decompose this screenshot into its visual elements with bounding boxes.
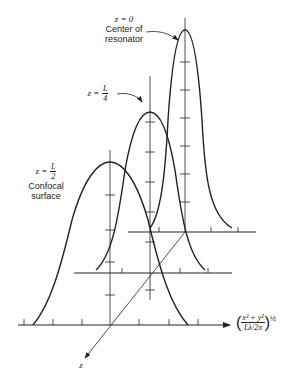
label-x-axis: (x² + y²Lλ/2π)½ <box>236 313 302 332</box>
plane-zL4 <box>74 76 232 300</box>
label-z-axis: z <box>76 360 86 370</box>
plane-z0 <box>128 18 256 232</box>
label-zL2: z = L2 Confocal surface <box>22 162 70 201</box>
label-zL4: z = L4 <box>78 84 118 103</box>
curve-z0 <box>150 30 232 228</box>
curve-zL4 <box>96 112 205 270</box>
callout-zL4 <box>117 93 142 102</box>
label-z0: z = 0 Center of resonator <box>92 14 156 44</box>
